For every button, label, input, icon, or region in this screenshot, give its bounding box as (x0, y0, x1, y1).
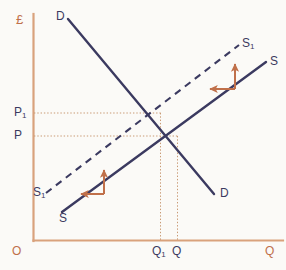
price-tick-p: P (14, 129, 22, 141)
supply-curve-label-bottom: S (59, 212, 67, 224)
demand-curve-label-bottom: D (220, 187, 229, 199)
demand-curve (68, 19, 214, 194)
price-tick-p-text: P (14, 128, 22, 142)
origin-label: O (12, 245, 21, 257)
quantity-tick-q1: Q1 (152, 245, 166, 257)
shifted-supply-curve-label-bottom: S1 (33, 186, 45, 198)
quantity-tick-q1-subscript: 1 (161, 250, 165, 259)
shifted-supply-curve (46, 45, 239, 193)
shifted-supply-label-top-text: S (242, 36, 250, 50)
x-axis-label: Q (265, 245, 274, 257)
supply-shift-arrow-upper (210, 64, 235, 89)
y-axis-label: £ (16, 13, 23, 26)
supply-curve-label-top: S (270, 55, 278, 67)
shifted-supply-label-bottom-text: S (33, 185, 41, 199)
price-tick-p1-text: P (14, 105, 22, 119)
quantity-tick-q: Q (172, 245, 181, 257)
demand-curve-label-top: D (56, 10, 65, 22)
price-tick-p1: P1 (14, 106, 26, 118)
guide-lines-group (34, 113, 178, 240)
shifted-supply-label-bottom-subscript: 1 (41, 191, 45, 200)
shifted-supply-curve-label-top: S1 (242, 37, 254, 49)
quantity-tick-q1-text: Q (152, 244, 161, 258)
shifted-supply-label-top-subscript: 1 (250, 42, 254, 51)
supply-demand-figure: £ O Q P1 P Q1 Q D D S S S1 S1 (0, 0, 286, 270)
price-tick-p1-subscript: 1 (22, 111, 26, 120)
quantity-tick-q-text: Q (172, 244, 181, 258)
